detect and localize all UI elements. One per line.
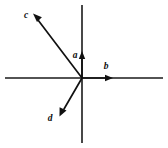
vector-d-shaft [64, 78, 82, 109]
vector-c-label: c [24, 10, 29, 20]
vector-d-arrowhead [60, 107, 67, 116]
vector-a-arrowhead [79, 51, 85, 59]
vector-d: d [48, 78, 82, 123]
vector-diagram-figure: a b c d [0, 0, 168, 148]
vector-d-label: d [48, 113, 53, 123]
vector-c-arrowhead [33, 14, 42, 23]
vector-a-label: a [73, 50, 78, 60]
vector-b-label: b [104, 61, 109, 71]
vector-c-shaft [38, 20, 82, 78]
vector-c: c [24, 10, 82, 78]
vector-b: b [82, 61, 113, 81]
vector-b-arrowhead [105, 75, 113, 81]
vector-diagram-canvas: a b c d [0, 0, 168, 148]
